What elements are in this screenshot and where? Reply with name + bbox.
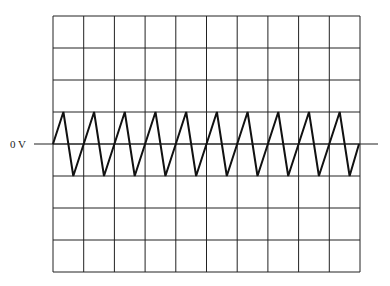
oscilloscope-display: 0 V <box>0 0 390 286</box>
zero-volt-label: 0 V <box>10 138 26 150</box>
